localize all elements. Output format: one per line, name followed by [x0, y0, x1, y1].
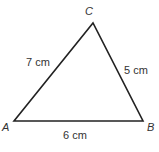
vertex-label-a: A — [1, 121, 9, 133]
side-label-ab: 6 cm — [63, 129, 87, 141]
vertex-label-b: B — [147, 121, 154, 133]
side-label-cb: 5 cm — [124, 64, 148, 76]
side-label-ac: 7 cm — [26, 56, 50, 68]
triangle-diagram: C A B 7 cm 5 cm 6 cm — [0, 0, 159, 152]
vertex-label-c: C — [85, 5, 93, 17]
